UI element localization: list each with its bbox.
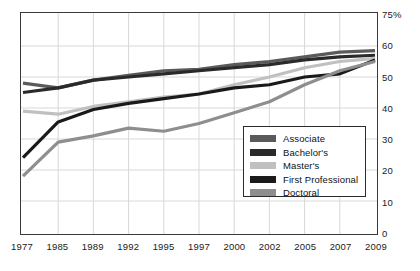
x-axis-tick-label: 1992	[117, 241, 139, 252]
legend-color-swatch	[250, 149, 276, 156]
x-axis-tick-label: 1989	[82, 241, 104, 252]
y-axis-tick-label: 60	[382, 40, 393, 51]
x-axis-tick-label: 2002	[259, 241, 281, 252]
x-axis-tick-label: 2000	[223, 241, 245, 252]
x-axis-tick-label: 1985	[46, 241, 68, 252]
series-line	[23, 58, 375, 114]
y-axis-tick-label: 20	[382, 165, 393, 176]
legend-item-label: Doctoral	[283, 187, 319, 198]
legend-item: Doctoral	[250, 186, 365, 199]
legend-item: Bachelor's	[250, 146, 365, 159]
legend-color-swatch	[250, 135, 276, 142]
x-axis-tick-label: 2007	[330, 241, 352, 252]
x-axis-tick-label: 1995	[153, 241, 175, 252]
series-lines	[21, 13, 377, 234]
y-axis-tick-label: 10	[382, 196, 393, 207]
x-axis-tick-label: 1997	[188, 241, 210, 252]
legend-item-label: Associate	[283, 133, 325, 144]
legend-item-label: Master's	[283, 160, 319, 171]
y-axis-tick-label: 0	[382, 228, 387, 239]
chart-legend: AssociateBachelor'sMaster'sFirst Profess…	[243, 126, 366, 197]
legend-color-swatch	[250, 176, 276, 183]
legend-color-swatch	[250, 162, 276, 169]
x-axis-tick-label: 2005	[294, 241, 316, 252]
y-axis-tick-label: 40	[382, 102, 393, 113]
legend-item-label: Bachelor's	[283, 147, 328, 158]
legend-item: Master's	[250, 159, 365, 172]
legend-item: Associate	[250, 132, 365, 145]
x-axis-tick-label: 1977	[11, 241, 33, 252]
legend-color-swatch	[250, 189, 276, 196]
y-axis-tick-label: 30	[382, 134, 393, 145]
line-chart: 75%6050403020100 19771985198919921995199…	[0, 0, 420, 271]
x-axis-tick-label: 2009	[365, 241, 387, 252]
plot-area	[20, 12, 378, 235]
legend-item-label: First Professional	[283, 174, 358, 185]
y-axis-tick-label: 50	[382, 71, 393, 82]
y-axis-tick-label: 75%	[382, 9, 402, 20]
legend-item: First Professional	[250, 173, 365, 186]
